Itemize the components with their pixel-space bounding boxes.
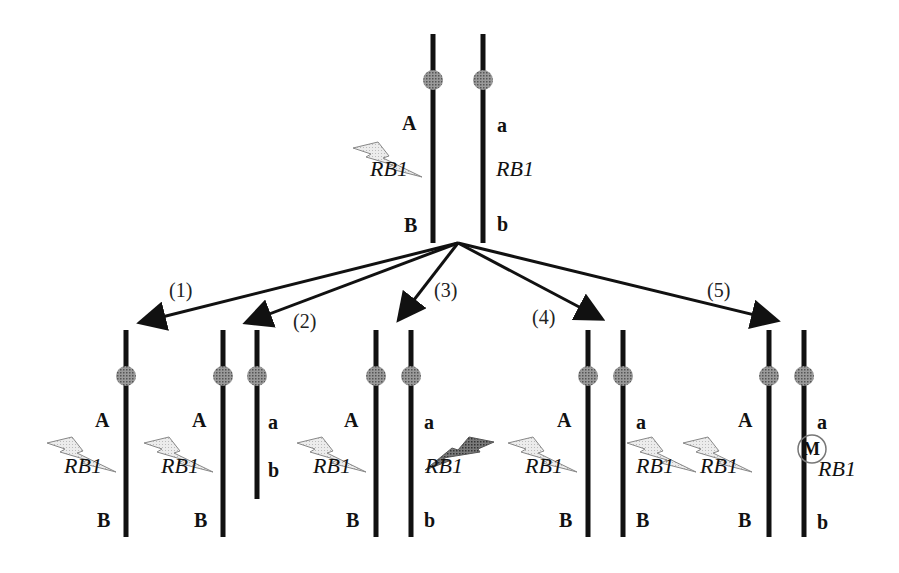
- allele-label: A: [557, 410, 571, 430]
- centromere-icon: [213, 366, 233, 386]
- gene-label: RB1: [313, 455, 351, 477]
- allele-label: A: [95, 410, 109, 430]
- centromere-icon: [613, 366, 633, 386]
- centromere-icon: [247, 366, 267, 386]
- gene-label: RB1: [161, 455, 199, 477]
- centromere-icon: [794, 366, 814, 386]
- allele-label: A: [402, 113, 416, 133]
- allele-label: A: [192, 410, 206, 430]
- pathway-number: (4): [532, 307, 555, 327]
- pathway-1-chromosomes: [47, 330, 136, 537]
- allele-label: b: [817, 512, 828, 532]
- allele-label: b: [424, 510, 435, 530]
- allele-label: B: [97, 510, 110, 530]
- centromere-icon: [759, 366, 779, 386]
- allele-label: B: [738, 510, 751, 530]
- allele-label: B: [404, 215, 417, 235]
- allele-label: B: [636, 510, 649, 530]
- gene-label: RB1: [818, 458, 856, 480]
- pathway-4-chromosomes: [508, 330, 696, 537]
- centromere-icon: [401, 366, 421, 386]
- gene-label: RB1: [370, 158, 408, 180]
- centromere-icon: [423, 70, 443, 90]
- gene-label: RB1: [64, 455, 102, 477]
- pathway-5-chromosomes: [683, 330, 826, 537]
- pathway-2-chromosomes: [144, 330, 267, 537]
- arrow-4: [458, 243, 600, 318]
- parent-chromosome-pair: [353, 34, 493, 243]
- centromere-icon: [578, 366, 598, 386]
- gene-label: RB1: [425, 455, 463, 477]
- allele-label: a: [497, 115, 507, 135]
- allele-label: b: [497, 214, 508, 234]
- allele-label: a: [817, 412, 827, 432]
- gene-label: RB1: [496, 158, 534, 180]
- centromere-icon: [473, 70, 493, 90]
- centromere-icon: [116, 366, 136, 386]
- gene-label: RB1: [700, 455, 738, 477]
- pathway-3-chromosomes: [297, 330, 494, 537]
- centromere-icon: [366, 366, 386, 386]
- allele-label: B: [559, 510, 572, 530]
- gene-label: RB1: [636, 455, 674, 477]
- allele-label: A: [344, 410, 358, 430]
- pathway-number: (5): [707, 280, 730, 300]
- gene-label: RB1: [525, 455, 563, 477]
- allele-label: a: [424, 412, 434, 432]
- pathway-number: (3): [434, 280, 457, 300]
- allele-label: b: [268, 460, 279, 480]
- pathway-arrows: [142, 243, 775, 322]
- pathway-number: (2): [293, 311, 316, 331]
- allele-label: A: [738, 410, 752, 430]
- allele-label: B: [194, 510, 207, 530]
- pathway-number: (1): [169, 280, 192, 300]
- allele-label: B: [346, 510, 359, 530]
- allele-label: a: [268, 412, 278, 432]
- allele-label: a: [636, 412, 646, 432]
